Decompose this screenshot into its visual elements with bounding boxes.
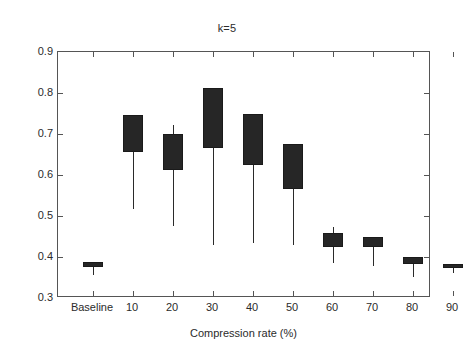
box-plot-group bbox=[323, 52, 343, 296]
y-tick-label: 0.6 bbox=[23, 168, 53, 180]
box-rect bbox=[363, 237, 383, 247]
whisker-lower bbox=[173, 170, 174, 226]
whisker-lower bbox=[333, 247, 334, 263]
whisker-lower bbox=[253, 165, 254, 243]
y-tick-mark bbox=[424, 257, 429, 258]
chart-title: k=5 bbox=[0, 22, 454, 34]
x-tick-label: Baseline bbox=[71, 301, 113, 313]
x-tick-label: 50 bbox=[286, 301, 298, 313]
whisker-lower bbox=[293, 189, 294, 245]
x-tick-label: 20 bbox=[166, 301, 178, 313]
box-rect bbox=[323, 233, 343, 247]
y-tick-label: 0.4 bbox=[23, 250, 53, 262]
y-tick-mark bbox=[424, 134, 429, 135]
x-tick-label: 60 bbox=[326, 301, 338, 313]
y-tick-label: 0.5 bbox=[23, 209, 53, 221]
box-rect bbox=[443, 264, 463, 269]
x-tick-label: 70 bbox=[366, 301, 378, 313]
whisker-lower bbox=[373, 247, 374, 266]
box-plot-group bbox=[363, 52, 383, 296]
y-tick-label: 0.7 bbox=[23, 127, 53, 139]
whisker-upper bbox=[333, 227, 334, 234]
x-tick-label: 90 bbox=[446, 301, 458, 313]
y-tick-label: 0.8 bbox=[23, 86, 53, 98]
box-rect bbox=[403, 257, 423, 264]
y-tick-mark bbox=[58, 93, 63, 94]
whisker-upper bbox=[173, 125, 174, 134]
whisker-lower bbox=[213, 148, 214, 244]
box-rect bbox=[123, 115, 143, 153]
box-rect bbox=[243, 114, 263, 166]
box-plot-group bbox=[283, 52, 303, 296]
x-tick-label: 10 bbox=[126, 301, 138, 313]
whisker-lower bbox=[453, 268, 454, 273]
box-plot-group bbox=[243, 52, 263, 296]
x-tick-label: 30 bbox=[206, 301, 218, 313]
y-tick-mark bbox=[58, 216, 63, 217]
x-tick-label: 40 bbox=[246, 301, 258, 313]
box-plot-group bbox=[443, 52, 463, 296]
box-plot-group bbox=[203, 52, 223, 296]
y-tick-mark bbox=[58, 134, 63, 135]
whisker-lower bbox=[133, 152, 134, 208]
y-tick-mark bbox=[58, 257, 63, 258]
box-plot-group bbox=[83, 52, 103, 296]
box-plot-group bbox=[403, 52, 423, 296]
x-axis-label: Compression rate (%) bbox=[57, 327, 430, 339]
plot-frame bbox=[57, 51, 430, 297]
box-plot-group bbox=[163, 52, 183, 296]
y-tick-mark bbox=[424, 175, 429, 176]
box-rect bbox=[203, 88, 223, 149]
box-rect bbox=[83, 262, 103, 267]
box-rect bbox=[283, 144, 303, 189]
x-tick-label: 80 bbox=[406, 301, 418, 313]
plot-area bbox=[58, 52, 429, 296]
box-plot-group bbox=[123, 52, 143, 296]
whisker-lower bbox=[93, 267, 94, 275]
box-rect bbox=[163, 134, 183, 170]
y-tick-mark bbox=[424, 93, 429, 94]
y-tick-mark bbox=[58, 175, 63, 176]
y-tick-label: 0.9 bbox=[23, 45, 53, 57]
y-tick-mark bbox=[424, 216, 429, 217]
whisker-lower bbox=[413, 264, 414, 277]
y-tick-label: 0.3 bbox=[23, 291, 53, 303]
y-axis-tick-labels: 0.90.80.70.60.50.40.3 bbox=[20, 51, 53, 297]
